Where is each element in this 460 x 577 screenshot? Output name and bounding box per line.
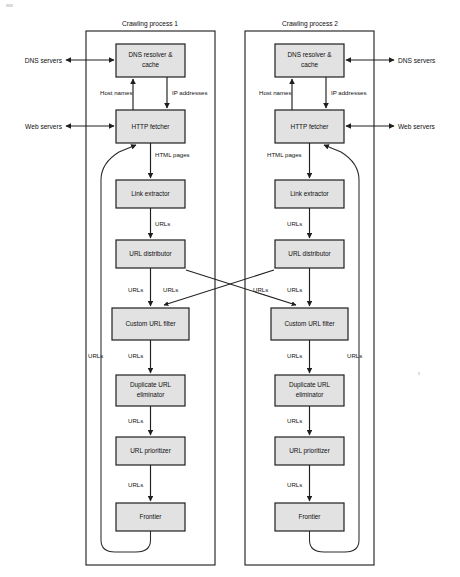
p1-label-urls-cross-out: URLs xyxy=(163,286,178,293)
p2-label-ip-addresses: IP addresses xyxy=(331,89,366,96)
cross-edge-p1-distributor-to-p2-filter xyxy=(186,270,296,305)
p1-duplicate-label-line2: eliminator xyxy=(137,391,166,398)
p2-label-host-names: Host names xyxy=(259,89,292,96)
process-2-title: Crawling process 2 xyxy=(282,20,338,28)
p1-label-urls-extractor-distributor: URLs xyxy=(155,220,170,227)
p2-dns-resolver-label-line2: cache xyxy=(301,61,318,68)
p2-label-urls-feedback: URLs xyxy=(347,352,362,359)
p2-url-prioritizer-label: URL prioritizer xyxy=(289,447,330,455)
p1-url-prioritizer-label: URL prioritizer xyxy=(130,447,171,455)
p2-duplicate-label-line1: Duplicate URL xyxy=(289,381,331,389)
scan-artifact-right xyxy=(418,372,420,375)
p1-label-html-pages: HTML pages xyxy=(155,151,190,158)
p1-custom-url-filter-label: Custom URL filter xyxy=(125,320,176,327)
p1-label-urls-distributor-filter: URLs xyxy=(128,286,143,293)
crawler-architecture-diagram: Crawling process 1 Crawling process 2 DN… xyxy=(0,0,460,577)
p2-label-html-pages: HTML pages xyxy=(267,151,302,158)
p2-label-dns-servers: DNS servers xyxy=(398,57,436,64)
p2-dns-resolver-label-line1: DNS resolver & xyxy=(287,51,332,58)
p2-label-urls-eliminator-prioritizer: URLs xyxy=(287,417,302,424)
p1-frontier-label: Frontier xyxy=(139,513,162,520)
p1-label-ip-addresses: IP addresses xyxy=(172,89,207,96)
p1-url-distributor-label: URL distributor xyxy=(129,250,172,257)
p1-http-fetcher-label: HTTP fetcher xyxy=(132,123,171,130)
p1-label-dns-servers: DNS servers xyxy=(25,57,63,64)
scan-artifact xyxy=(6,4,13,7)
p1-label-urls-prioritizer-frontier: URLs xyxy=(128,481,143,488)
process-1-title: Crawling process 1 xyxy=(122,20,178,28)
p2-label-urls-filter-eliminator: URLs xyxy=(287,352,302,359)
p2-duplicate-label-line2: eliminator xyxy=(296,391,325,398)
p1-label-urls-eliminator-prioritizer: URLs xyxy=(128,417,143,424)
p2-link-extractor-label: Link extractor xyxy=(290,190,329,197)
p1-label-host-names: Host names xyxy=(100,89,133,96)
p2-url-distributor-label: URL distributor xyxy=(288,250,331,257)
p2-frontier-label: Frontier xyxy=(298,513,321,520)
p1-duplicate-label-line1: Duplicate URL xyxy=(130,381,172,389)
p1-label-urls-feedback: URLs xyxy=(88,352,103,359)
p2-http-fetcher-label: HTTP fetcher xyxy=(291,123,330,130)
p2-custom-url-filter-label: Custom URL filter xyxy=(284,320,335,327)
p2-label-urls-prioritizer-frontier: URLs xyxy=(287,481,302,488)
p2-label-urls-cross-out: URLs xyxy=(253,286,268,293)
diagram-root: Crawling process 1 Crawling process 2 DN… xyxy=(0,0,460,577)
p2-label-urls-extractor-distributor: URLs xyxy=(287,220,302,227)
p1-dns-resolver-label-line2: cache xyxy=(142,61,159,68)
p1-dns-resolver-label-line1: DNS resolver & xyxy=(128,51,173,58)
p1-link-extractor-label: Link extractor xyxy=(131,190,170,197)
p2-label-web-servers: Web servers xyxy=(398,123,436,130)
p2-label-urls-distributor-filter: URLs xyxy=(287,286,302,293)
p1-label-urls-filter-eliminator: URLs xyxy=(128,352,143,359)
p1-label-web-servers: Web servers xyxy=(25,123,63,130)
